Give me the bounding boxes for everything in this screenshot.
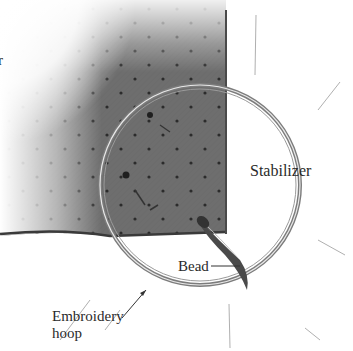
label-hoop-line1: Embroidery (52, 308, 124, 325)
fabric (0, 0, 226, 240)
hoop-arrowhead (140, 290, 146, 296)
label-stabilizer: Stabilizer (250, 162, 311, 179)
label-partial: r (0, 52, 3, 69)
embroidery-illustration: r Stabilizer Bead Embroidery hoop (0, 0, 353, 351)
label-bead: Bead (178, 258, 209, 275)
label-hoop-line2: hoop (52, 325, 82, 342)
